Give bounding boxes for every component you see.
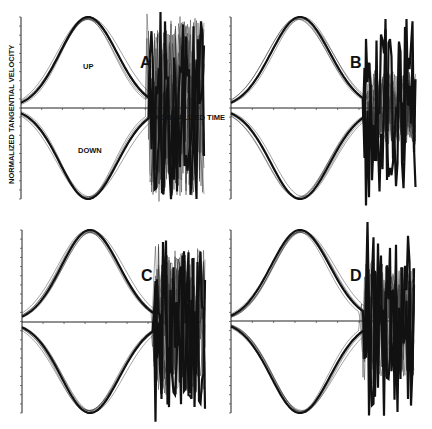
- down-label: DOWN: [78, 146, 102, 155]
- up-label: UP: [83, 62, 93, 71]
- panel-d: D: [229, 222, 414, 416]
- panel-label: D: [350, 267, 362, 284]
- panel-label: C: [141, 267, 153, 284]
- panel-label: B: [350, 54, 362, 71]
- panel-label: A: [140, 54, 152, 71]
- velocity-profile-figure: AUPDOWNNORMALIZED TIMENORMALIZED TANGENT…: [0, 0, 432, 429]
- y-axis-label: NORMALIZED TANGENTIAL VELOCITY: [7, 45, 16, 184]
- panel-c: C: [20, 230, 205, 422]
- mean-curve-down: [231, 237, 414, 415]
- x-axis-label: NORMALIZED TIME: [155, 113, 225, 122]
- panel-b: B: [229, 17, 416, 206]
- panel-a: AUPDOWNNORMALIZED TIMENORMALIZED TANGENT…: [7, 12, 225, 202]
- mean-curve-down: [231, 19, 416, 205]
